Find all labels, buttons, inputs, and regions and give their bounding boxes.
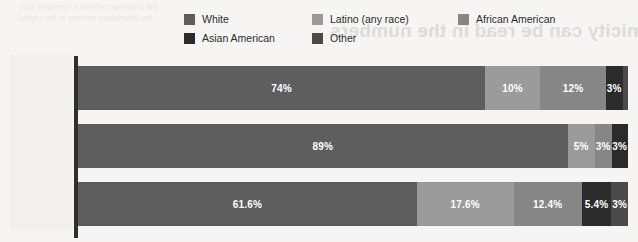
segment-value-senate-african-american: 3% [596, 141, 611, 152]
legend-row-2: Asian American Other [184, 29, 604, 48]
legend-label-other: Other [330, 33, 356, 44]
segment-value-house-white: 74% [271, 83, 292, 94]
segment-value-uspop-asian-american: 5.4% [585, 199, 609, 210]
legend-item-latino: Latino (any race) [312, 14, 458, 25]
legend-label-white: White [202, 14, 229, 25]
segment-value-house-latino: 10% [502, 83, 523, 94]
segment-value-uspop-african-american: 12.4% [533, 199, 562, 210]
segment-house-other: 1% [623, 66, 629, 110]
segment-value-house-african-american: 12% [563, 83, 584, 94]
legend-item-asian-american: Asian American [184, 33, 312, 44]
segment-senate-latino: 5% [568, 124, 596, 168]
segment-value-uspop-white: 61.6% [233, 199, 262, 210]
legend-item-african-american: African American [458, 14, 598, 25]
segment-uspop-latino: 17.6% [417, 182, 514, 226]
segment-house-white: 74% [78, 66, 485, 110]
bar-row-us-population: U.S. population 61.6% 17.6% 12.4% 5.4% 3… [78, 182, 628, 226]
bar-row-house: House 74% 10% 12% 3% 1% 1% [78, 66, 628, 110]
legend-item-white: White [184, 14, 312, 25]
segment-value-senate-asian-american: 3% [612, 141, 627, 152]
segment-senate-white: 89% [78, 124, 568, 168]
legend-label-african-american: African American [476, 14, 555, 25]
segment-value-uspop-other: 3% [612, 199, 627, 210]
segment-senate-asian-american: 3% [612, 124, 629, 168]
segment-uspop-other: 3% [611, 182, 628, 226]
legend-swatch-other-icon [312, 33, 323, 44]
segment-value-uspop-latino: 17.6% [451, 199, 480, 210]
legend-label-latino: Latino (any race) [330, 14, 409, 25]
legend-row-1: White Latino (any race) African American [184, 10, 604, 29]
legend-item-other: Other [312, 33, 458, 44]
segment-house-latino: 10% [485, 66, 540, 110]
segment-senate-african-american: 3% [595, 124, 612, 168]
bar-row-senate: Senate 89% 5% 3% 3% [78, 124, 628, 168]
segment-house-african-american: 12% [540, 66, 606, 110]
legend-label-asian-american: Asian American [202, 33, 275, 44]
bleedthrough-body-line-2: the lawmakers serving in the capitol [18, 13, 153, 23]
bleedthrough-body-line-1: the chamber reflects a narrower slice [18, 2, 157, 12]
legend-swatch-asian-american-icon [184, 33, 195, 44]
segment-uspop-african-american: 12.4% [514, 182, 582, 226]
segment-value-senate-white: 89% [312, 141, 333, 152]
segment-value-senate-latino: 5% [574, 141, 589, 152]
segment-house-asian-american: 3% [606, 66, 623, 110]
legend-swatch-white-icon [184, 14, 195, 25]
legend-swatch-latino-icon [312, 14, 323, 25]
segment-uspop-white: 61.6% [78, 182, 417, 226]
chart-plot-area: House 74% 10% 12% 3% 1% 1% Senate [0, 56, 638, 242]
chart-figure: hnicity can be read in the numbers the c… [0, 0, 638, 242]
legend-swatch-african-american-icon [458, 14, 469, 25]
chart-legend: White Latino (any race) African American… [184, 10, 604, 48]
segment-value-house-asian-american: 3% [607, 83, 622, 94]
segment-uspop-asian-american: 5.4% [582, 182, 612, 226]
